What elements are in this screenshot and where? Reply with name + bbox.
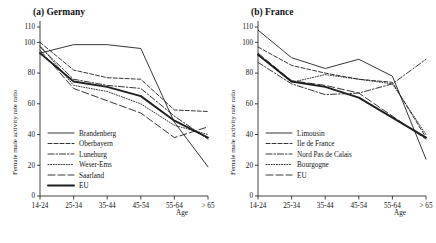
x-tick-label: 45-54	[132, 202, 149, 210]
x-tick-label: 45-54	[350, 202, 367, 210]
legend-label-eu: EU	[297, 172, 307, 180]
y-tick-label: 60	[28, 100, 36, 108]
germany-x-axis-title: Age	[176, 209, 188, 217]
legend-label-weser-ems: Weser-Ems	[79, 161, 112, 169]
legend-label-nord-pas-de-calais: Nord Pas de Calais	[297, 151, 352, 159]
figure-root: (a) Germany Female male activity rate ra…	[0, 0, 436, 243]
y-tick-label: 80	[246, 69, 254, 77]
legend-label-saarland: Saarland	[79, 172, 105, 180]
germany-plot-area: 02040608010011014-2425-3435-4445-5455-64…	[24, 21, 215, 210]
x-tick-label: 25-34	[283, 202, 300, 210]
y-tick-label: 0	[249, 192, 253, 200]
y-tick-label: 40	[28, 131, 36, 139]
france-plot-svg: (b) France Female male activity rate rat…	[218, 0, 436, 243]
france-plot-area: 02040608010011014-2425-3435-4445-5455-64…	[242, 21, 433, 210]
x-tick-label: 14-24	[250, 202, 267, 210]
y-tick-label: 80	[28, 69, 36, 77]
panel-title-france: (b) France	[251, 7, 293, 18]
legend-label-brandenberg: Brandenberg	[79, 130, 116, 138]
legend-label-luneburg: Luneburg	[79, 151, 107, 159]
x-tick-label: 25-34	[65, 202, 82, 210]
y-tick-label: 110	[242, 23, 253, 31]
panel-title-germany: (a) Germany	[33, 7, 85, 18]
legend-label-limousin: Limousin	[297, 130, 325, 138]
legend-label-bourgogne: Bourgogne	[297, 161, 329, 169]
x-tick-label: 35-44	[99, 202, 116, 210]
series-line-eu	[40, 53, 208, 138]
x-tick-label: > 65	[419, 202, 432, 210]
france-y-axis-title: Female male activity rate ratio	[229, 89, 237, 175]
svg-text:Female male activity rate rati: Female male activity rate ratio	[11, 89, 19, 175]
y-tick-label: 20	[28, 162, 36, 170]
y-tick-label: 110	[24, 23, 35, 31]
germany-plot-svg: (a) Germany Female male activity rate ra…	[0, 0, 218, 243]
x-tick-label: > 65	[201, 202, 214, 210]
legend-label-ile-de-france: Ile de France	[297, 140, 335, 148]
series-line-oberbayern	[40, 42, 208, 111]
y-tick-label: 40	[246, 131, 254, 139]
y-tick-label: 100	[242, 39, 253, 47]
legend-label-eu: EU	[79, 182, 89, 190]
chart-panel-france: (b) France Female male activity rate rat…	[218, 0, 436, 243]
y-tick-label: 20	[246, 162, 254, 170]
x-tick-label: 14-24	[32, 202, 49, 210]
x-tick-label: 35-44	[317, 202, 334, 210]
germany-y-axis-title: Female male activity rate ratio	[11, 89, 19, 175]
svg-text:Female male activity rate rati: Female male activity rate ratio	[229, 89, 237, 175]
y-tick-label: 100	[24, 39, 35, 47]
chart-panel-germany: (a) Germany Female male activity rate ra…	[0, 0, 218, 243]
series-line-limousin	[258, 30, 426, 159]
france-x-axis-title: Age	[394, 209, 406, 217]
legend-label-oberbayern: Oberbayern	[79, 140, 113, 148]
y-tick-label: 0	[31, 192, 35, 200]
y-tick-label: 60	[246, 100, 254, 108]
series-line-weser-ems	[40, 45, 208, 134]
